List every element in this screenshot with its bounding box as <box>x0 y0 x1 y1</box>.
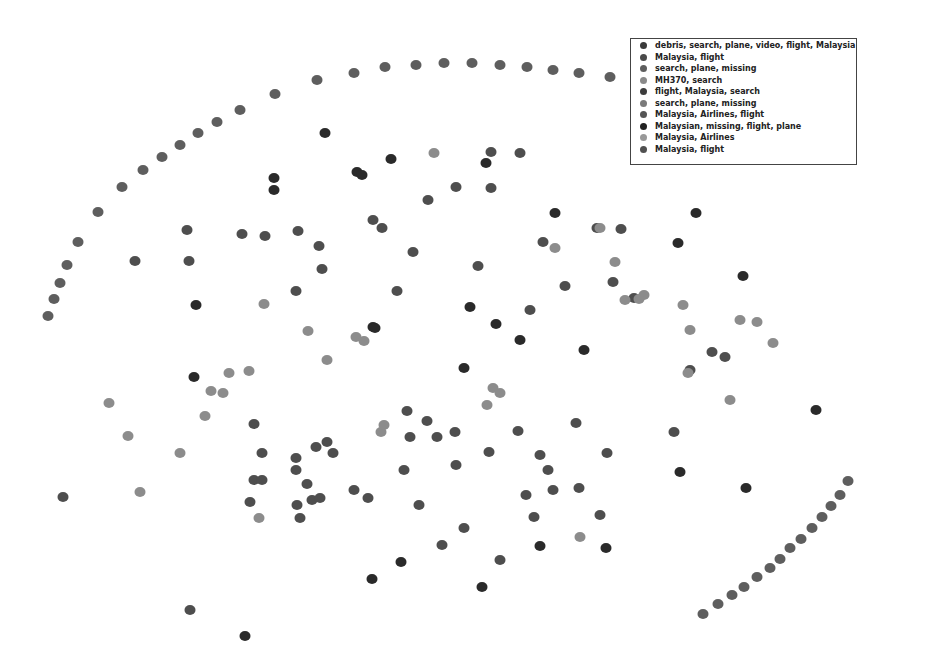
data-point <box>817 512 828 522</box>
data-point <box>135 487 146 497</box>
data-point <box>322 355 333 365</box>
data-point <box>328 448 339 458</box>
data-point <box>55 278 66 288</box>
data-point <box>184 256 195 266</box>
data-point <box>49 294 60 304</box>
data-point <box>634 294 645 304</box>
data-point <box>349 68 360 78</box>
data-point <box>550 243 561 253</box>
data-point <box>616 224 627 234</box>
data-point <box>429 148 440 158</box>
data-point <box>349 485 360 495</box>
data-point <box>765 563 776 573</box>
data-point <box>459 363 470 373</box>
data-point <box>521 490 532 500</box>
data-point <box>191 300 202 310</box>
data-point <box>311 442 322 452</box>
data-point <box>486 183 497 193</box>
data-point <box>605 72 616 82</box>
legend-label: Malaysia, flight <box>655 145 724 154</box>
data-point <box>402 406 413 416</box>
data-point <box>579 345 590 355</box>
data-point <box>254 513 265 523</box>
data-point <box>182 225 193 235</box>
data-point <box>486 147 497 157</box>
data-point <box>601 543 612 553</box>
legend-label: flight, Malaysia, search <box>655 87 760 96</box>
data-point <box>574 68 585 78</box>
data-point <box>481 158 492 168</box>
data-point <box>58 492 69 502</box>
data-point <box>104 398 115 408</box>
legend-entry: Malaysia, flight <box>631 144 856 156</box>
data-point <box>548 65 559 75</box>
data-point <box>368 215 379 225</box>
data-point <box>257 448 268 458</box>
legend-marker-icon <box>640 77 647 84</box>
data-point <box>295 513 306 523</box>
data-point <box>117 182 128 192</box>
data-point <box>245 497 256 507</box>
data-point <box>513 426 524 436</box>
data-point <box>396 557 407 567</box>
data-point <box>467 58 478 68</box>
data-point <box>741 483 752 493</box>
legend-label: search, plane, missing <box>655 64 756 73</box>
chart-legend: debris, search, plane, video, flight, Ma… <box>630 38 857 165</box>
data-point <box>675 467 686 477</box>
data-point <box>835 490 846 500</box>
data-point <box>320 128 331 138</box>
data-point <box>843 476 854 486</box>
legend-marker-icon <box>640 65 647 72</box>
data-point <box>93 207 104 217</box>
data-point <box>193 128 204 138</box>
legend-label: Malaysian, missing, flight, plane <box>655 122 801 131</box>
data-point <box>423 195 434 205</box>
data-point <box>574 483 585 493</box>
data-point <box>123 431 134 441</box>
data-point <box>685 325 696 335</box>
legend-entry: search, plane, missing <box>631 98 856 110</box>
data-point <box>707 347 718 357</box>
data-point <box>291 465 302 475</box>
data-point <box>673 238 684 248</box>
data-point <box>317 264 328 274</box>
data-point <box>720 352 731 362</box>
data-point <box>386 154 397 164</box>
data-point <box>200 411 211 421</box>
data-point <box>157 152 168 162</box>
legend-entry: search, plane, missing <box>631 63 856 75</box>
legend-marker-icon <box>640 123 647 130</box>
data-point <box>796 534 807 544</box>
data-point <box>450 427 461 437</box>
data-point <box>379 420 390 430</box>
data-point <box>595 223 606 233</box>
data-point <box>218 388 229 398</box>
data-point <box>515 148 526 158</box>
data-point <box>302 479 313 489</box>
data-point <box>367 574 378 584</box>
legend-label: MH370, search <box>655 76 722 85</box>
data-point <box>543 465 554 475</box>
data-point <box>392 286 403 296</box>
data-point <box>735 315 746 325</box>
data-point <box>752 317 763 327</box>
data-point <box>495 60 506 70</box>
data-point <box>491 319 502 329</box>
data-point <box>357 170 368 180</box>
data-point <box>269 173 280 183</box>
data-point <box>775 554 786 564</box>
legend-marker-icon <box>640 54 647 61</box>
data-point <box>240 631 251 641</box>
legend-marker-icon <box>640 42 647 49</box>
data-point <box>315 493 326 503</box>
data-point <box>363 493 374 503</box>
data-point <box>408 247 419 257</box>
data-point <box>260 231 271 241</box>
data-point <box>525 305 536 315</box>
data-point <box>768 338 779 348</box>
legend-label: debris, search, plane, video, flight, Ma… <box>655 41 855 50</box>
data-point <box>175 140 186 150</box>
legend-entry: Malaysia, Airlines, flight <box>631 109 856 121</box>
data-point <box>437 540 448 550</box>
